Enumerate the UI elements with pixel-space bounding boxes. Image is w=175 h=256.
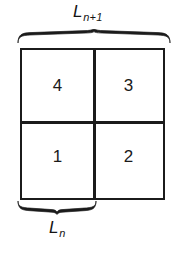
quadrant-cell-top-left: 4 (22, 50, 93, 121)
quadrant-label: 1 (53, 147, 62, 167)
quadrant-label: 4 (53, 76, 62, 96)
quadrant-cell-top-right: 3 (95, 50, 162, 121)
bottom-dimension-base: L (49, 218, 59, 237)
quadrant-label: 2 (124, 147, 133, 167)
top-dimension-subscript: n+1 (83, 11, 102, 23)
quadrant-cell-bottom-left: 1 (22, 123, 93, 190)
bottom-dimension-subscript: n (59, 227, 65, 239)
quadrant-cell-bottom-right: 2 (95, 123, 162, 190)
top-dimension-base: L (73, 2, 83, 21)
quadrant-label: 3 (124, 76, 133, 96)
top-brace-icon (16, 29, 172, 45)
quadrant-box: 4 3 1 2 (20, 48, 165, 200)
top-dimension-label: Ln+1 (0, 3, 175, 20)
quadrant-subdivision-figure: Ln+1 4 3 1 2 Ln (0, 0, 175, 256)
bottom-brace-icon (16, 201, 98, 216)
bottom-dimension-label: Ln (20, 219, 94, 236)
